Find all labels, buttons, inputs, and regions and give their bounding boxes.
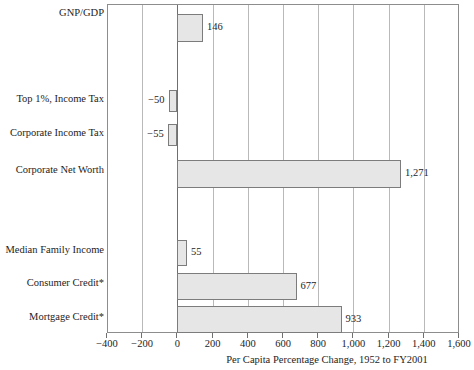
bar-value-label: −50 (108, 95, 165, 106)
gridline (142, 5, 143, 332)
category-label: Median Family Income (0, 245, 104, 256)
bar-value-label: 55 (191, 247, 202, 258)
x-axis-title: Per Capita Percentage Change, 1952 to FY… (226, 355, 428, 366)
x-tick-label: −400 (96, 339, 118, 350)
category-label: Corporate Income Tax (0, 128, 104, 139)
x-tick-label: 1,200 (377, 339, 401, 350)
x-tick-label: 0 (175, 339, 180, 350)
plot-area: 146−50−551,27155677933 (107, 4, 459, 333)
category-label: GNP/GDP (0, 8, 104, 19)
bar (177, 273, 296, 300)
x-tick-label: −200 (131, 339, 153, 350)
x-tick-label: 800 (310, 339, 326, 350)
x-tick-label: 200 (205, 339, 221, 350)
x-tick-label: 400 (240, 339, 256, 350)
x-tick-label: 1,400 (412, 339, 436, 350)
x-tick-label: 600 (275, 339, 291, 350)
bar (177, 240, 187, 266)
bar-value-label: 677 (301, 281, 317, 292)
bar-value-label: 933 (346, 314, 362, 325)
x-tick-label: 1,000 (342, 339, 366, 350)
category-label: Mortgage Credit* (0, 312, 104, 323)
x-tick-label: 1,600 (447, 339, 471, 350)
bar-value-label: 1,271 (405, 168, 429, 179)
category-label: Corporate Net Worth (0, 165, 104, 176)
bar (177, 14, 203, 42)
bar (169, 90, 178, 112)
bar-value-label: −55 (108, 129, 164, 140)
category-label: Top 1%, Income Tax (0, 94, 104, 105)
bar (177, 306, 341, 333)
bar (168, 124, 178, 146)
bar-value-label: 146 (207, 22, 223, 33)
bar (177, 160, 401, 188)
category-label: Consumer Credit* (0, 278, 104, 289)
bar-chart: 146−50−551,27155677933 GNP/GDPTop 1%, In… (0, 0, 474, 370)
